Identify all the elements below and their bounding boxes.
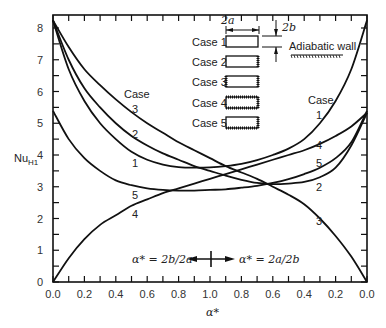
case-4-label: Case 4	[192, 97, 227, 109]
right-label-1: 1	[316, 109, 322, 121]
left-ratio-label: α* = 2b/2a	[132, 253, 192, 266]
dim-2b-label: 2b	[281, 21, 296, 34]
case-5-schematic	[226, 117, 258, 128]
x-tick-label: 0.4	[297, 288, 312, 300]
x-tick-label: 0.6	[140, 288, 155, 300]
x-tick-label: 0.0	[45, 288, 60, 300]
x-axis-label: α*	[206, 306, 219, 319]
left-label-1: 1	[132, 157, 138, 169]
x-tick-label: 0.6	[265, 288, 280, 300]
x-tick-label: 0.0	[359, 288, 374, 300]
case-3-schematic	[226, 76, 258, 87]
left-label-5: 5	[132, 189, 138, 201]
left-label-2: 2	[132, 128, 138, 140]
left-label-4: 4	[132, 208, 138, 220]
y-tick-label: 3	[37, 181, 43, 193]
x-tick-label: 0.4	[108, 288, 123, 300]
y-tick-label: 2	[37, 213, 43, 225]
case-2-schematic	[226, 56, 258, 67]
case-legend: 2a 2b Adiabatic wall Case 1 Case 2 Case …	[192, 14, 356, 129]
case-1-schematic	[226, 36, 258, 47]
y-tick-label: 6	[37, 86, 43, 98]
y-tick-label: 1	[37, 244, 43, 256]
right-label-5: 5	[316, 157, 322, 169]
right-label-4: 4	[316, 139, 322, 151]
x-tick-label: 0.8	[234, 288, 249, 300]
right-label-2: 2	[316, 181, 322, 193]
left-label-3: 3	[132, 103, 138, 115]
double-arrow-icon	[187, 251, 235, 267]
y-tick-label: 5	[37, 117, 43, 129]
y-tick-label: 0	[37, 276, 43, 288]
dim-2a-label: 2a	[220, 14, 235, 27]
y-tick-label: 8	[37, 22, 43, 34]
case-3-label: Case 3	[192, 76, 227, 88]
case-4-schematic	[226, 97, 258, 108]
case-5-label: Case 5	[192, 117, 227, 129]
right-label-3: 3	[316, 215, 322, 227]
x-tick-label: 0.2	[328, 288, 343, 300]
y-tick-label: 7	[37, 54, 43, 66]
y-axis-label: NuH1	[14, 152, 39, 167]
x-tick-label: 0.2	[77, 288, 92, 300]
x-tick-label: 1.0	[202, 288, 217, 300]
adiabatic-wall-label: Adiabatic wall	[289, 40, 356, 52]
right-case-header: Case	[308, 94, 334, 106]
case-2-label: Case 2	[192, 56, 227, 68]
case-1-label: Case 1	[192, 36, 227, 48]
nusselt-chart: 012345678 0.00.20.40.60.81.00.80.60.40.2…	[0, 0, 386, 328]
left-case-header: Case	[124, 88, 150, 100]
x-tick-label: 0.8	[171, 288, 186, 300]
right-ratio-label: α* = 2a/2b	[239, 253, 299, 266]
